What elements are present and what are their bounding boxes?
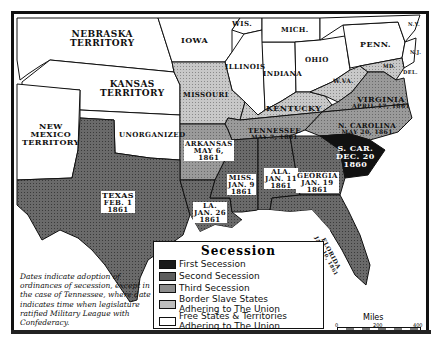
- legend-item-first-secession: First Secession: [159, 260, 246, 270]
- swatch-free: [159, 317, 176, 326]
- label-md: MD.: [383, 64, 396, 69]
- label-new-mexico-territory: NEW MEXICO TERRITORY: [22, 122, 80, 146]
- label-indiana: INDIANA: [263, 70, 302, 77]
- frame-shadow: [11, 330, 431, 334]
- scale-title: Miles: [363, 313, 383, 322]
- label-georgia: GEORGIA JAN. 19 1861: [296, 172, 339, 193]
- label-mississippi: MISS. JAN. 9 1861: [227, 174, 256, 195]
- label-missouri: MISSOURI: [183, 91, 228, 98]
- legend-title: Secession: [154, 244, 323, 258]
- label-wis: WIS.: [232, 20, 252, 27]
- label-penn: PENN.: [360, 40, 391, 48]
- label-tennessee: TENNESSEE MAY 7, 1861: [248, 127, 301, 140]
- label-nj: N.J.: [410, 50, 421, 55]
- label-del: DEL.: [403, 70, 418, 75]
- label-arkansas: ARKANSAS MAY 6, 1861: [184, 140, 234, 161]
- label-mich: MICH.: [281, 26, 309, 33]
- label-iowa: IOWA: [181, 36, 208, 44]
- swatch-second: [159, 272, 176, 281]
- legend-item-second-secession: Second Secession: [159, 272, 260, 282]
- swatch-first: [159, 260, 176, 269]
- legend-item-free: Free States & Territories Adhering to Th…: [159, 312, 287, 331]
- label-nebraska-territory: NEBRASKA TERRITORY: [70, 30, 135, 48]
- label-unorganized: UNORGANIZED: [119, 131, 185, 138]
- label-north-carolina: N. CAROLINA MAY 20, 1861: [338, 122, 396, 135]
- label-virginia: VIRGINIA APRIL 17, 1861: [352, 95, 410, 109]
- label-ny: N.Y.: [408, 22, 420, 27]
- legend: Secession First Secession Second Secessi…: [153, 241, 324, 329]
- label-alabama: ALA. JAN. 11 1861: [264, 168, 298, 189]
- swatch-border: [159, 300, 176, 309]
- footnote: Dates indicate adoption of ordinances of…: [20, 272, 152, 327]
- swatch-third: [159, 284, 176, 293]
- legend-item-third-secession: Third Secession: [159, 284, 250, 294]
- label-south-carolina: S. CAR. DEC. 20 1860: [336, 144, 375, 168]
- label-texas: TEXAS FEB. 1 1861: [101, 191, 135, 213]
- label-louisiana: LA. JAN. 26 1861: [193, 202, 227, 223]
- label-ohio: OHIO: [305, 56, 329, 63]
- label-wva: W.VA.: [333, 78, 354, 84]
- label-kentucky: KENTUCKY: [266, 104, 321, 112]
- label-illinois: ILLINOIS: [225, 63, 265, 70]
- label-kansas-territory: KANSAS TERRITORY: [100, 80, 165, 98]
